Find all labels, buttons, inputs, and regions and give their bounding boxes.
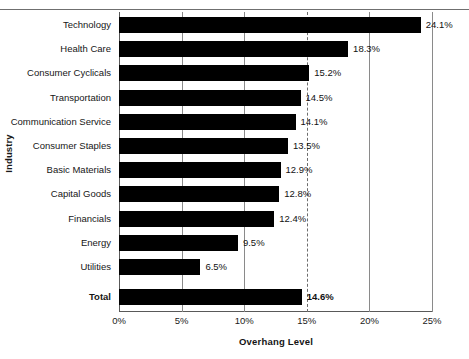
bar	[119, 186, 279, 202]
category-label: Consumer Cyclicals	[27, 66, 115, 80]
bar	[119, 259, 200, 275]
x-tick-label: 10%	[235, 315, 254, 326]
x-tick-label: 0%	[112, 315, 126, 326]
bar	[119, 17, 421, 33]
x-tick-label: 20%	[360, 315, 379, 326]
bar	[119, 65, 309, 81]
bar-row: 15.2%	[119, 65, 433, 81]
chart-figure: Industry TechnologyHealth CareConsumer C…	[0, 0, 469, 359]
top-rule	[0, 9, 469, 10]
bar	[119, 162, 281, 178]
category-label: Technology	[63, 18, 115, 32]
bar-row: 18.3%	[119, 41, 433, 57]
bar	[119, 211, 274, 227]
bar-value-label: 6.5%	[205, 260, 227, 274]
bar-row: 14.1%	[119, 114, 433, 130]
category-label: Transportation	[50, 91, 115, 105]
x-tick-label: 25%	[422, 315, 441, 326]
bar-row: 12.9%	[119, 162, 433, 178]
bar-value-label: 14.6%	[307, 290, 334, 304]
bar-value-label: 12.4%	[279, 212, 306, 226]
bar-row: 13.5%	[119, 138, 433, 154]
bar-row: 12.8%	[119, 186, 433, 202]
x-tick-label: 15%	[297, 315, 316, 326]
x-tick-label: 5%	[175, 315, 189, 326]
category-label-column: TechnologyHealth CareConsumer CyclicalsT…	[0, 12, 115, 312]
x-axis-title: Overhang Level	[119, 336, 433, 347]
bar-value-label: 12.9%	[286, 163, 313, 177]
category-label: Energy	[81, 236, 115, 250]
category-label: Capital Goods	[51, 187, 115, 201]
bar-row: 14.5%	[119, 90, 433, 106]
category-label: Consumer Staples	[33, 139, 115, 153]
category-label: Basic Materials	[47, 163, 115, 177]
bar-row: 9.5%	[119, 235, 433, 251]
bar-value-label: 14.5%	[306, 91, 333, 105]
category-label: Communication Service	[11, 115, 115, 129]
bar-value-label: 15.2%	[314, 66, 341, 80]
bar	[119, 114, 296, 130]
bar-value-label: 12.8%	[284, 187, 311, 201]
category-label: Financials	[68, 212, 115, 226]
bar-row: 24.1%	[119, 17, 433, 33]
bar-value-label: 18.3%	[353, 42, 380, 56]
bar-value-label: 24.1%	[426, 18, 453, 32]
bar	[119, 138, 288, 154]
bar	[119, 90, 301, 106]
x-tick-label-group: 0%5%10%15%20%25%	[119, 315, 433, 331]
bar-value-label: 9.5%	[243, 236, 265, 250]
bar-value-label: 13.5%	[293, 139, 320, 153]
bar-value-label: 14.1%	[301, 115, 328, 129]
category-label: Utilities	[80, 260, 115, 274]
bar-series: 24.1%18.3%15.2%14.5%14.1%13.5%12.9%12.8%…	[119, 12, 433, 312]
bar	[119, 289, 302, 305]
bar	[119, 41, 348, 57]
category-label: Health Care	[60, 42, 115, 56]
bar-row: 6.5%	[119, 259, 433, 275]
bar-row: 12.4%	[119, 211, 433, 227]
category-label: Total	[89, 290, 115, 304]
bar-row: 14.6%	[119, 289, 433, 305]
bar	[119, 235, 238, 251]
plot-area: 24.1%18.3%15.2%14.5%14.1%13.5%12.9%12.8%…	[119, 12, 433, 312]
